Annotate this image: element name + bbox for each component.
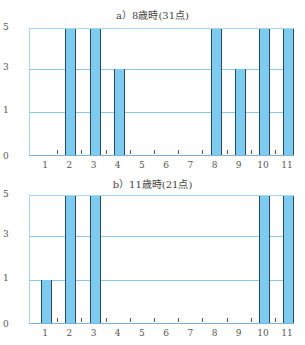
chart-b-plot-area <box>29 195 294 323</box>
bar-3 <box>90 196 101 324</box>
x-tick-label: 11 <box>277 328 297 338</box>
bar-10 <box>259 29 270 156</box>
x-tick-label: 2 <box>59 160 79 170</box>
x-tick <box>130 150 131 154</box>
chart-b-title: b）11歳時(21点) <box>0 176 305 191</box>
y-tick-label: 1 <box>3 273 15 283</box>
x-tick <box>178 150 179 154</box>
bar-11 <box>283 29 294 156</box>
x-tick-label: 10 <box>253 328 273 338</box>
chart-a-title: a）8歳時(31点) <box>0 7 305 22</box>
x-tick <box>202 150 203 154</box>
bar-11 <box>283 196 294 324</box>
x-tick <box>81 318 82 322</box>
x-tick-label: 6 <box>156 328 176 338</box>
y-tick-label: 5 <box>3 22 15 32</box>
x-tick-label: 7 <box>180 328 200 338</box>
x-tick <box>227 318 228 322</box>
x-tick-label: 9 <box>229 160 249 170</box>
x-tick-label: 5 <box>132 328 152 338</box>
bar-8 <box>211 29 222 156</box>
x-tick <box>106 318 107 322</box>
y-tick-label: 1 <box>3 105 15 115</box>
x-tick-label: 6 <box>156 160 176 170</box>
x-tick <box>106 150 107 154</box>
x-tick-label: 5 <box>132 160 152 170</box>
x-tick <box>202 318 203 322</box>
x-tick <box>227 150 228 154</box>
chart-b-x-axis <box>29 323 294 324</box>
y-tick-label: 3 <box>3 229 15 239</box>
x-tick-label: 2 <box>59 328 79 338</box>
bar-10 <box>259 196 270 324</box>
x-tick-label: 1 <box>35 160 55 170</box>
y-tick-label: 0 <box>3 319 15 329</box>
x-tick <box>251 150 252 154</box>
bar-9 <box>235 69 246 156</box>
x-tick-label: 4 <box>108 160 128 170</box>
x-tick-label: 10 <box>253 160 273 170</box>
x-tick <box>178 318 179 322</box>
bar-3 <box>90 29 101 156</box>
x-tick <box>154 318 155 322</box>
x-tick-label: 1 <box>35 328 55 338</box>
bar-4 <box>114 69 125 156</box>
y-tick-label: 0 <box>3 151 15 161</box>
x-tick-label: 11 <box>277 160 297 170</box>
x-tick-label: 7 <box>180 160 200 170</box>
y-tick-label: 3 <box>3 62 15 72</box>
chart-a-x-axis <box>29 155 294 156</box>
x-tick-label: 3 <box>84 160 104 170</box>
x-tick-label: 3 <box>84 328 104 338</box>
x-tick <box>154 150 155 154</box>
bar-1 <box>41 280 52 324</box>
x-tick <box>57 150 58 154</box>
bar-2 <box>65 29 76 156</box>
x-tick-label: 9 <box>229 328 249 338</box>
x-tick <box>275 318 276 322</box>
x-tick-label: 4 <box>108 328 128 338</box>
chart-a-plot-area <box>29 28 294 155</box>
x-tick <box>57 318 58 322</box>
x-tick <box>251 318 252 322</box>
x-tick <box>130 318 131 322</box>
x-tick-label: 8 <box>205 328 225 338</box>
x-tick <box>81 150 82 154</box>
bar-2 <box>65 196 76 324</box>
x-tick <box>275 150 276 154</box>
y-tick-label: 5 <box>3 189 15 199</box>
x-tick-label: 8 <box>205 160 225 170</box>
